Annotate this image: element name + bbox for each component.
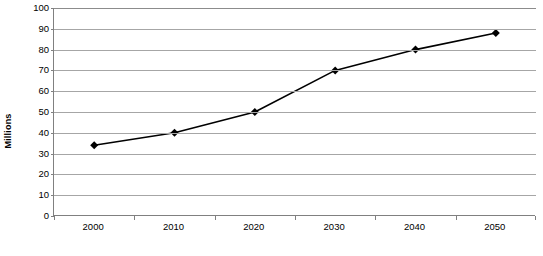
gridline — [54, 70, 536, 71]
y-axis-tick-label: 50 — [20, 107, 49, 117]
gridline — [54, 154, 536, 155]
x-axis-tick-label: 2020 — [224, 221, 284, 233]
y-axis-title-label: Millions — [3, 113, 13, 148]
gridline — [54, 174, 536, 175]
gridline — [54, 133, 536, 134]
gridline — [54, 29, 536, 30]
gridline — [54, 8, 536, 9]
y-axis-tick-mark — [51, 174, 54, 175]
x-axis-tick-label: 2030 — [304, 221, 364, 233]
x-axis-tick-mark — [375, 216, 376, 220]
y-axis-tick-labels: 1009080706050403020100 — [20, 0, 49, 216]
x-axis-tick-labels: 200020102020203020402050 — [53, 221, 535, 237]
gridline — [54, 112, 536, 113]
x-axis-tick-mark — [295, 216, 296, 220]
y-axis-tick-mark — [51, 70, 54, 71]
y-axis-tick-label: 10 — [20, 190, 49, 200]
x-axis-tick-label: 2010 — [144, 221, 204, 233]
x-axis-tick-mark — [215, 216, 216, 220]
plot-area — [53, 8, 535, 216]
gridline — [54, 91, 536, 92]
x-axis-tick-mark — [456, 216, 457, 220]
y-axis-tick-mark — [51, 8, 54, 9]
y-axis-tick-label: 40 — [20, 128, 49, 138]
y-axis-tick-label: 80 — [20, 45, 49, 55]
y-axis-tick-label: 100 — [20, 3, 49, 13]
data-point-marker — [492, 29, 500, 37]
x-axis-tick-label: 2050 — [465, 221, 525, 233]
y-axis-tick-label: 60 — [20, 86, 49, 96]
y-axis-tick-mark — [51, 133, 54, 134]
y-axis-tick-mark — [51, 91, 54, 92]
x-axis-tick-mark — [535, 216, 536, 220]
y-axis-tick-mark — [51, 154, 54, 155]
y-axis-tick-mark — [51, 50, 54, 51]
y-axis-tick-label: 90 — [20, 24, 49, 34]
x-axis-tick-mark — [54, 216, 55, 220]
data-point-marker — [90, 141, 98, 149]
gridline — [54, 195, 536, 196]
chart-caption — [53, 246, 473, 256]
line-chart: Millions 1009080706050403020100 20002010… — [0, 0, 543, 256]
y-axis-tick-mark — [51, 112, 54, 113]
y-axis-title: Millions — [0, 96, 16, 166]
gridline — [54, 50, 536, 51]
y-axis-tick-label: 0 — [20, 211, 49, 221]
y-axis-tick-label: 30 — [20, 149, 49, 159]
y-axis-tick-mark — [51, 29, 54, 30]
x-axis-tick-mark — [134, 216, 135, 220]
x-axis-tick-label: 2000 — [63, 221, 123, 233]
y-axis-tick-label: 70 — [20, 65, 49, 75]
x-axis-tick-label: 2040 — [385, 221, 445, 233]
y-axis-tick-mark — [51, 195, 54, 196]
y-axis-tick-label: 20 — [20, 169, 49, 179]
